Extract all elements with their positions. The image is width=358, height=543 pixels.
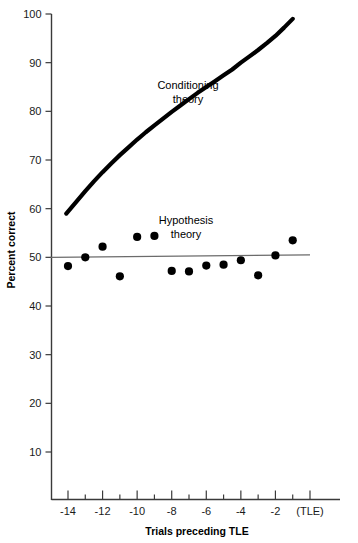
y-tick-label-10: 10	[29, 446, 41, 458]
data-point	[98, 243, 106, 251]
chart-annotations: ConditioningtheoryHypothesistheory	[157, 79, 218, 240]
x-tick-label--4: -4	[236, 505, 246, 517]
chart-container: 102030405060708090100 -14-12-10-8-6-4-2(…	[0, 0, 358, 543]
y-tick-label-60: 60	[29, 203, 41, 215]
y-tick-label-90: 90	[29, 57, 41, 69]
y-tick-label-30: 30	[29, 349, 41, 361]
data-point	[116, 272, 124, 280]
y-tick-label-100: 100	[23, 8, 41, 20]
data-point	[64, 262, 72, 270]
y-tick-label-80: 80	[29, 105, 41, 117]
data-point	[202, 262, 210, 270]
data-point	[185, 267, 193, 275]
x-tick-label--10: -10	[129, 505, 145, 517]
x-tick-label--6: -6	[201, 505, 211, 517]
data-point	[289, 236, 297, 244]
x-axis-title: Trials preceding TLE	[145, 525, 248, 537]
hypothesis-theory-label: Hypothesistheory	[159, 214, 214, 240]
data-point	[133, 233, 141, 241]
data-point	[219, 261, 227, 269]
x-tick-label-0: (TLE)	[296, 505, 324, 517]
data-point	[254, 271, 262, 279]
data-point	[237, 256, 245, 264]
x-axis-tick-labels: -14-12-10-8-6-4-2(TLE)	[60, 505, 324, 517]
y-axis-ticks	[46, 14, 52, 452]
y-tick-label-70: 70	[29, 154, 41, 166]
data-point	[271, 251, 279, 259]
x-axis-ticks	[68, 491, 310, 500]
x-tick-label--2: -2	[271, 505, 281, 517]
y-tick-label-50: 50	[29, 251, 41, 263]
data-point	[150, 232, 158, 240]
percent-correct-scatter-chart: 102030405060708090100 -14-12-10-8-6-4-2(…	[0, 0, 358, 543]
x-tick-label--12: -12	[95, 505, 111, 517]
x-tick-label--14: -14	[60, 505, 76, 517]
x-tick-label--8: -8	[167, 505, 177, 517]
conditioning-theory-label: Conditioningtheory	[157, 79, 218, 105]
conditioning-theory-curve	[66, 19, 292, 214]
data-point	[168, 267, 176, 275]
y-tick-label-20: 20	[29, 397, 41, 409]
y-axis-tick-labels: 102030405060708090100	[23, 8, 41, 458]
y-tick-label-40: 40	[29, 300, 41, 312]
y-axis-title: Percent correct	[5, 211, 17, 289]
data-point	[81, 253, 89, 261]
hypothesis-theory-line	[51, 255, 310, 257]
